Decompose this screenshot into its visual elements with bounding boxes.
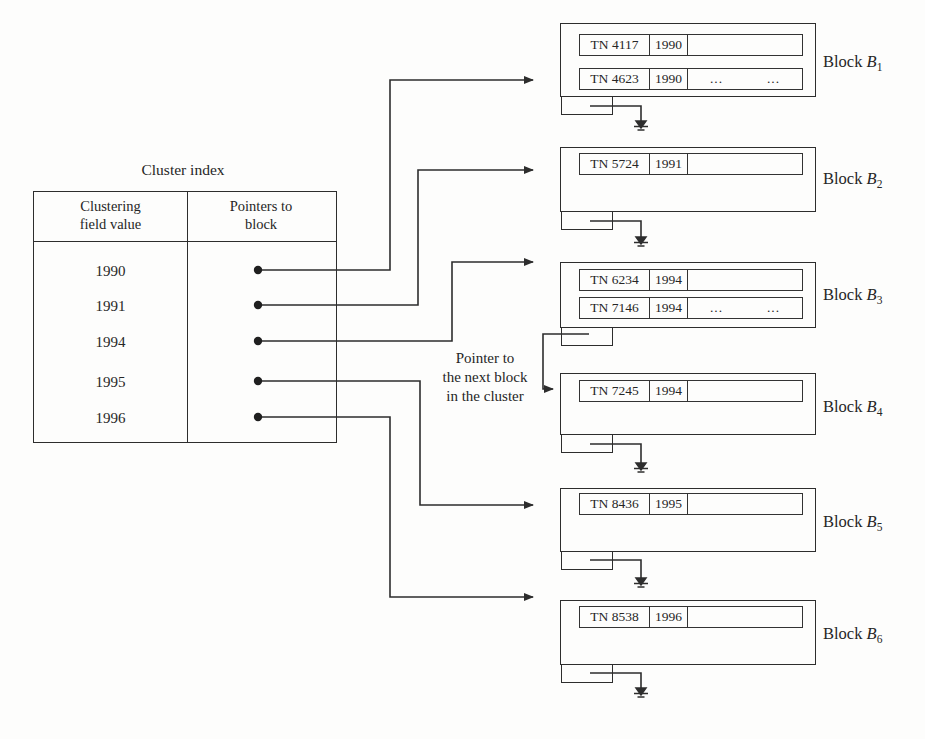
record-tn8436: TN 8436 1995 bbox=[579, 493, 803, 515]
block-b1: TN 4117 1990 TN 4623 1990 ...... bbox=[560, 23, 816, 97]
pointer-arrow-1996-to-b6 bbox=[258, 417, 533, 597]
block-b4-pointer-slot bbox=[561, 434, 613, 453]
record-tn4623: TN 4623 1990 ...... bbox=[579, 68, 803, 90]
record-tn5724: TN 5724 1991 bbox=[579, 153, 803, 175]
block-b2-label: Block B2 bbox=[823, 169, 923, 190]
index-value-1996: 1996 bbox=[34, 409, 187, 427]
ground-icon bbox=[634, 463, 648, 472]
index-table-title: Cluster index bbox=[83, 161, 283, 179]
header-separator-line bbox=[34, 241, 336, 243]
block-b5-pointer-slot bbox=[561, 551, 613, 570]
record-tn7245: TN 7245 1994 bbox=[579, 380, 803, 402]
index-value-1991: 1991 bbox=[34, 297, 187, 315]
block-b3-pointer-slot bbox=[561, 327, 613, 346]
index-value-1995: 1995 bbox=[34, 373, 187, 391]
block-b4-label: Block B4 bbox=[823, 397, 923, 418]
record-tn4117: TN 4117 1990 bbox=[579, 34, 803, 56]
record-tn8538: TN 8538 1996 bbox=[579, 606, 803, 628]
ground-icon bbox=[634, 237, 648, 246]
ground-icon bbox=[634, 688, 648, 697]
column-header-pointers: Pointers to block bbox=[188, 198, 334, 233]
block-b5-label: Block B5 bbox=[823, 512, 923, 533]
record-tn6234: TN 6234 1994 bbox=[579, 269, 803, 291]
index-value-1994: 1994 bbox=[34, 333, 187, 351]
ground-icon bbox=[634, 578, 648, 587]
block-b2-pointer-slot bbox=[561, 211, 613, 230]
index-value-1990: 1990 bbox=[34, 262, 187, 280]
clustering-index-diagram: Cluster index Clustering field value Poi… bbox=[0, 0, 925, 739]
block-b6: TN 8538 1996 bbox=[560, 600, 816, 665]
block-b1-pointer-slot bbox=[561, 96, 613, 115]
block-b3: TN 6234 1994 TN 7146 1994 ...... bbox=[560, 262, 816, 328]
ground-icon bbox=[634, 121, 648, 130]
record-tn7146: TN 7146 1994 ...... bbox=[579, 297, 803, 319]
cluster-index-table: Clustering field value Pointers to block… bbox=[33, 191, 337, 443]
block-b6-pointer-slot bbox=[561, 664, 613, 683]
block-b6-label: Block B6 bbox=[823, 624, 923, 645]
block-b4: TN 7245 1994 bbox=[560, 373, 816, 435]
block-b5: TN 8436 1995 bbox=[560, 488, 816, 552]
column-header-clustering-field: Clustering field value bbox=[34, 198, 187, 233]
chain-pointer-label: Pointer to the next block in the cluster bbox=[424, 349, 546, 406]
block-b3-label: Block B3 bbox=[823, 285, 923, 306]
block-b2: TN 5724 1991 bbox=[560, 147, 816, 212]
block-b1-label: Block B1 bbox=[823, 52, 923, 73]
